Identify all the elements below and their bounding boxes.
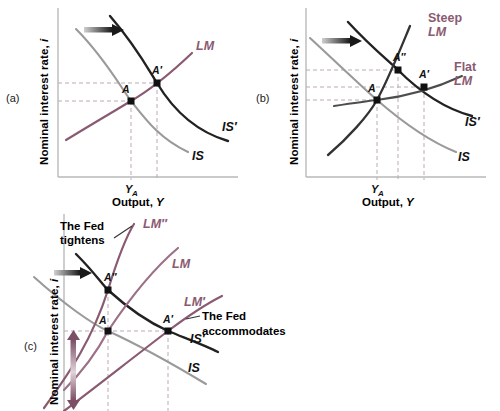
- curve-label-IS: IS: [458, 150, 470, 164]
- rate-down-arrow: [67, 372, 80, 410]
- point-A-label: A: [98, 314, 107, 326]
- curve-label-LM-double-prime: LM″: [143, 217, 168, 231]
- x-axis-label-b: Output, Y: [362, 196, 414, 208]
- point-A-prime-label: A′: [418, 68, 430, 80]
- curve-label-steep-LM-line2: LM: [428, 25, 447, 39]
- y-axis-label-c: Nominal interest rate, i: [48, 279, 60, 405]
- y-axis-label-a-text: Nominal interest rate,: [38, 45, 50, 165]
- point-A-label: A: [121, 83, 130, 95]
- point-A-prime: [165, 328, 172, 335]
- panel-c-chart: A″ A A′ LM″ LM LM′ IS IS′ The Fed tighte…: [20, 212, 350, 411]
- panel-tag-b: (b): [256, 92, 269, 104]
- curve-label-IS-prime: IS′: [465, 115, 481, 129]
- point-A-label: A: [367, 82, 376, 94]
- x-axis-label-a-text: Output,: [112, 196, 153, 208]
- y-axis-label-b-text: Nominal interest rate,: [288, 45, 300, 165]
- fed-tightens-note-line1: The Fed: [60, 220, 104, 232]
- curve-label-LM-prime: LM′: [184, 295, 206, 309]
- x-axis-label-a-var: Y: [156, 196, 164, 208]
- x-axis-label-b-var: Y: [406, 196, 414, 208]
- y-axis-label-c-text: Nominal interest rate,: [48, 285, 60, 405]
- shift-right-arrow: [54, 267, 92, 279]
- point-A-double-prime-label: A″: [103, 271, 118, 283]
- curve-label-IS: IS: [188, 361, 200, 375]
- y-axis-label-a: Nominal interest rate, i: [38, 39, 50, 165]
- y-axis-label-b-var: i: [288, 39, 300, 42]
- point-A-double-prime-label: A″: [392, 51, 407, 63]
- curve-label-flat-LM-line2: LM: [454, 74, 473, 88]
- point-A: [128, 98, 135, 105]
- point-A-prime-label: A′: [151, 64, 163, 76]
- rate-up-arrow: [67, 330, 80, 372]
- curve-label-LM: LM: [172, 257, 191, 271]
- panel-tag-c: (c): [24, 340, 37, 352]
- point-A-prime-label: A′: [162, 313, 174, 325]
- curve-IS-prime: [110, 16, 228, 141]
- y-axis-label-b: Nominal interest rate, i: [288, 39, 300, 165]
- fed-accommodates-note-line1: The Fed: [202, 310, 246, 322]
- curve-label-IS: IS: [192, 149, 204, 163]
- point-A: [374, 97, 381, 104]
- point-A: [105, 328, 112, 335]
- y-axis-label-a-var: i: [38, 39, 50, 42]
- point-A-double-prime: [105, 287, 112, 294]
- curve-label-flat-LM-line1: Flat: [454, 60, 477, 74]
- fed-tightens-note-line2: tightens: [60, 234, 105, 246]
- curve-LM-prime: [64, 296, 222, 411]
- curve-label-IS-prime: IS′: [222, 120, 238, 134]
- curve-IS: [76, 29, 188, 152]
- fed-accommodates-note-line2: accommodates: [202, 325, 286, 337]
- point-A-prime: [421, 84, 428, 91]
- y-axis-label-c-var: i: [48, 279, 60, 282]
- point-A-double-prime: [395, 67, 402, 74]
- x-axis-label-b-text: Output,: [362, 196, 403, 208]
- curve-label-LM: LM: [196, 39, 215, 53]
- x-axis-label-a: Output, Y: [112, 196, 164, 208]
- shift-right-arrow: [322, 35, 362, 47]
- panel-tag-a: (a): [6, 92, 19, 104]
- panel-c: A″ A A′ LM″ LM LM′ IS IS′ The Fed tighte…: [20, 212, 350, 411]
- curve-label-steep-LM-line1: Steep: [428, 11, 462, 25]
- point-A-prime: [154, 80, 161, 87]
